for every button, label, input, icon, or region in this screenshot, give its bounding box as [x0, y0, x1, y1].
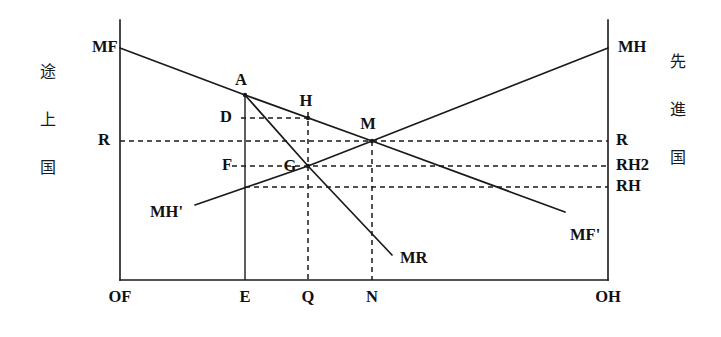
y-level-left-R: R: [98, 130, 111, 149]
y-level-right-RH2: RH2: [616, 155, 649, 174]
axis-frame: [120, 20, 608, 280]
y-axis-left-labels: R: [98, 130, 111, 149]
x-axis-tick-labels: OFEQNOH: [109, 287, 621, 306]
x-tick-label-Q: Q: [302, 287, 315, 306]
right-caption-char-1: 進: [670, 100, 686, 119]
node-points: AHMG: [235, 70, 376, 175]
x-tick-label-N: N: [366, 287, 378, 306]
node-point-H: [306, 116, 310, 120]
curve-MF: [120, 48, 565, 212]
node-point-G: [306, 164, 310, 168]
left-caption-char-0: 途: [40, 62, 56, 81]
curve-labels: MFMF'MHMH'MR: [92, 37, 647, 267]
y-level-right-R: R: [616, 130, 629, 149]
curve-MH: [195, 48, 608, 205]
node-point-A: [243, 93, 247, 97]
x-tick-label-E: E: [239, 287, 250, 306]
curve-lines: [120, 48, 608, 255]
inner-level-label-F: F: [222, 155, 232, 174]
x-tick-label-OF: OF: [109, 287, 132, 306]
y-axis-right-labels: RRH2RH: [616, 130, 649, 195]
left-caption-char-1: 上: [40, 110, 56, 129]
node-label-H: H: [300, 91, 313, 110]
diagram-canvas: AHMG MFMF'MHMH'MR OFEQNOH RRH2RH R DF 途上…: [0, 0, 721, 337]
right-side-caption: 先進国: [670, 52, 686, 167]
right-caption-char-0: 先: [670, 52, 686, 71]
curve-label-MR: MR: [400, 248, 429, 267]
left-caption-char-2: 国: [40, 158, 56, 177]
curve-label-MF_prime: MF': [570, 225, 600, 244]
inner-level-label-D: D: [220, 107, 232, 126]
x-tick-label-OH: OH: [595, 287, 621, 306]
node-point-M: [370, 139, 374, 143]
node-label-A: A: [235, 70, 247, 89]
curve-label-MF: MF: [92, 37, 118, 56]
y-level-right-RH: RH: [616, 176, 641, 195]
curve-label-MH_prime: MH': [150, 202, 183, 221]
node-label-M: M: [360, 114, 376, 133]
economics-diagram: AHMG MFMF'MHMH'MR OFEQNOH RRH2RH R DF 途上…: [0, 0, 721, 337]
curve-label-MH: MH: [618, 37, 647, 56]
node-label-G: G: [284, 156, 297, 175]
right-caption-char-2: 国: [670, 148, 686, 167]
left-side-caption: 途上国: [40, 62, 56, 177]
